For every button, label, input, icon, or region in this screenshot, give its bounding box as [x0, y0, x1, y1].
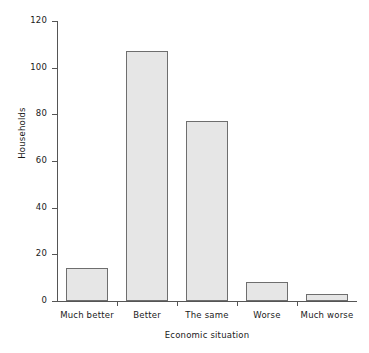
y-axis-title: Households	[17, 73, 27, 193]
y-axis-line	[57, 21, 58, 301]
x-tick-label: Much worse	[277, 310, 369, 320]
y-tick-mark	[52, 254, 57, 255]
y-tick-label: 80	[7, 108, 47, 118]
bar	[126, 51, 168, 301]
x-axis-line	[57, 301, 357, 302]
bar-chart: Households 020406080100120 Much betterBe…	[0, 0, 369, 353]
y-tick-label: 60	[7, 155, 47, 165]
y-tick-label: 20	[7, 248, 47, 258]
x-tick-mark	[237, 301, 238, 306]
y-tick-mark	[52, 161, 57, 162]
bar	[66, 268, 108, 301]
y-tick-label: 40	[7, 202, 47, 212]
bar	[246, 282, 288, 301]
bar	[306, 294, 348, 301]
bar	[186, 121, 228, 301]
x-axis-title: Economic situation	[57, 330, 357, 340]
y-tick-label: 100	[7, 62, 47, 72]
x-tick-mark	[117, 301, 118, 306]
y-tick-mark	[52, 68, 57, 69]
y-tick-mark	[52, 114, 57, 115]
y-tick-label: 120	[7, 15, 47, 25]
y-tick-mark	[52, 21, 57, 22]
y-tick-mark	[52, 208, 57, 209]
y-tick-label: 0	[7, 295, 47, 305]
x-tick-mark	[177, 301, 178, 306]
x-tick-mark	[297, 301, 298, 306]
